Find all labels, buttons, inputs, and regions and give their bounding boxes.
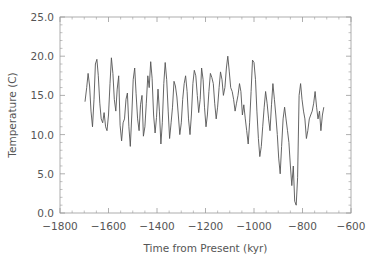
x-tick-label: −600 [337,220,366,232]
x-tick-label: −800 [288,220,317,232]
x-tick-label: −1600 [91,220,127,232]
y-tick-label: 0.0 [37,207,54,219]
y-axis-label: Temperature (C) [6,72,18,158]
y-tick-label: 10.0 [31,129,54,141]
x-tick-label: −1400 [139,220,175,232]
x-tick-label: −1000 [236,220,272,232]
x-axis-label: Time from Present (kyr) [143,242,268,254]
y-tick-label: 20.0 [31,50,54,62]
x-tick-label: −1800 [42,220,78,232]
y-tick-label: 5.0 [37,168,54,180]
y-axis-ticks: 0.05.010.015.020.025.0 [31,11,351,219]
x-tick-label: −1200 [188,220,224,232]
y-tick-label: 15.0 [31,89,54,101]
x-axis-ticks: −1800−1600−1400−1200−1000−800−600 [42,17,365,232]
temperature-series-line [85,56,324,205]
temperature-line-chart: 0.05.010.015.020.025.0 −1800−1600−1400−1… [0,0,372,265]
y-tick-label: 25.0 [31,11,54,23]
